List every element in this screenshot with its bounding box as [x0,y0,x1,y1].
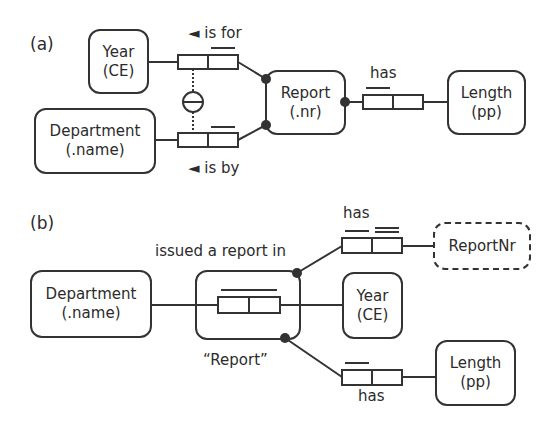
value-type-report-nr[interactable]: ReportNr [433,222,531,270]
fact-reading-is-for: ◄ is for [188,25,242,42]
entity-year-b[interactable]: Year (CE) [342,272,403,339]
entity-report-a[interactable]: Report (.nr) [265,70,346,135]
entity-name: Department [46,285,137,304]
objectified-reading: issued a report in [155,243,286,260]
entity-name: Year [357,287,389,306]
entity-name: ReportNr [448,237,515,256]
entity-year-a[interactable]: Year (CE) [88,29,149,94]
entity-name: Department [50,122,141,141]
entity-ref: (.name) [65,141,124,160]
objectified-name: “Report” [203,352,268,369]
panel-a-label: (a) [30,34,54,54]
entity-name: Report [281,84,331,103]
entity-ref: (pp) [460,373,491,392]
entity-department-a[interactable]: Department (.name) [34,108,156,174]
objectified-report-frame[interactable] [195,270,301,340]
entity-ref: (CE) [103,62,135,81]
fact-reading-has-report-nr: has [343,205,370,222]
entity-ref: (pp) [471,103,502,122]
fact-reading-has-a: has [370,65,397,82]
fact-reading-has-length: has [358,388,385,405]
entity-ref: (.nr) [289,103,321,122]
panel-b-label: (b) [30,213,54,233]
entity-department-b[interactable]: Department (.name) [30,270,152,338]
entity-name: Length [461,84,513,103]
entity-length-a[interactable]: Length (pp) [447,70,526,135]
entity-name: Length [450,354,502,373]
entity-ref: (CE) [357,306,389,325]
entity-ref: (.name) [61,304,120,323]
entity-name: Year [103,43,135,62]
fact-reading-is-by: ◄ is by [188,160,239,177]
entity-length-b[interactable]: Length (pp) [435,340,516,406]
